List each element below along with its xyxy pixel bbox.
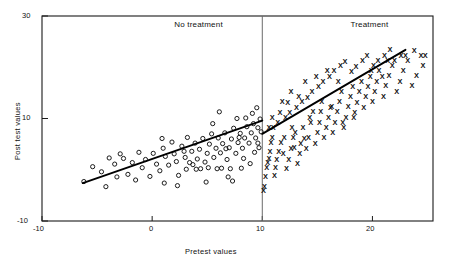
panel-label-no-treatment: No treatment — [174, 20, 223, 29]
data-point-x-marker: X — [306, 133, 311, 142]
data-point-circle — [247, 141, 251, 145]
y-tick-label-10: 10 — [22, 113, 30, 122]
data-point-x-marker: X — [370, 97, 375, 106]
data-point-circle — [215, 167, 219, 171]
data-point-circle — [191, 163, 195, 167]
data-point-circle — [137, 150, 141, 154]
data-point-x-marker: X — [320, 77, 325, 86]
data-point-x-marker: X — [324, 123, 329, 132]
data-point-x-marker: X — [350, 82, 355, 91]
data-point-x-marker: X — [397, 77, 402, 86]
data-point-x-marker: X — [421, 61, 426, 70]
data-point-x-marker: X — [401, 66, 406, 75]
data-point-x-marker: X — [361, 103, 366, 112]
data-point-x-marker: X — [262, 182, 267, 191]
data-point-x-marker: X — [375, 56, 380, 65]
data-point-x-marker: X — [290, 123, 295, 132]
data-point-x-marker: X — [351, 113, 356, 122]
data-point-circle — [176, 173, 180, 177]
data-point-circle — [113, 162, 117, 166]
data-point-circle — [221, 142, 225, 146]
data-point-circle — [115, 175, 119, 179]
data-point-x-marker: X — [313, 139, 318, 148]
y-axis-label: Post test values — [13, 102, 22, 160]
data-point-circle — [243, 136, 247, 140]
data-point-x-marker: X — [394, 87, 399, 96]
data-point-x-marker: X — [277, 108, 282, 117]
data-point-circle — [248, 162, 252, 166]
data-point-circle — [190, 149, 194, 153]
data-point-x-marker: X — [263, 172, 268, 181]
data-point-circle — [167, 163, 171, 167]
data-point-circle — [199, 167, 203, 171]
data-point-circle — [99, 170, 103, 174]
data-point-circle — [203, 160, 207, 164]
data-point-x-marker: X — [294, 103, 299, 112]
data-point-circle — [219, 166, 223, 170]
x-tick-label-minus10: -10 — [33, 224, 44, 233]
data-point-x-marker: X — [281, 149, 286, 158]
data-point-circle — [240, 146, 244, 150]
data-point-x-marker: X — [355, 98, 360, 107]
data-point-x-marker: X — [280, 97, 285, 106]
data-point-circle — [197, 147, 201, 151]
data-point-circle — [206, 166, 210, 170]
data-point-x-marker: X — [348, 92, 353, 101]
data-point-circle — [207, 142, 211, 146]
data-point-circle — [256, 141, 260, 145]
data-point-circle — [212, 155, 216, 159]
regression-line-no-treatment — [83, 121, 263, 184]
data-point-x-marker: X — [304, 144, 309, 153]
data-point-x-marker: X — [329, 102, 334, 111]
data-point-circle — [104, 185, 108, 189]
data-point-x-marker: X — [336, 77, 341, 86]
data-points-no-treatment — [82, 106, 264, 189]
data-point-x-marker: X — [268, 147, 273, 156]
data-point-circle — [237, 135, 241, 139]
data-point-circle — [134, 178, 138, 182]
x-tick-label-10: 10 — [256, 224, 264, 233]
data-point-x-marker: X — [410, 81, 415, 90]
data-point-circle — [218, 151, 222, 155]
data-point-circle — [217, 110, 221, 114]
data-point-x-marker: X — [297, 149, 302, 158]
data-point-x-marker: X — [270, 113, 275, 122]
data-point-x-marker: X — [285, 98, 290, 107]
x-tick-label-20: 20 — [366, 224, 374, 233]
data-point-circle — [151, 151, 155, 155]
data-point-x-marker: X — [292, 143, 297, 152]
data-point-x-marker: X — [272, 171, 277, 180]
data-point-x-marker: X — [317, 118, 322, 127]
x-axis-label: Pretest values — [185, 247, 237, 256]
data-point-circle — [107, 156, 111, 160]
plot-border — [42, 16, 433, 221]
data-point-x-marker: X — [383, 81, 388, 90]
data-point-circle — [214, 146, 218, 150]
data-point-circle — [226, 175, 230, 179]
data-point-circle — [239, 166, 243, 170]
data-point-x-marker: X — [286, 155, 291, 164]
data-point-x-marker: X — [325, 66, 330, 75]
scatter-plot-figure: XXXXXXXXXXXXXXXXXXXXXXXXXXXXXXXXXXXXXXXX… — [0, 0, 454, 266]
plot-canvas: XXXXXXXXXXXXXXXXXXXXXXXXXXXXXXXXXXXXXXXX… — [0, 0, 454, 266]
data-point-x-marker: X — [326, 113, 331, 122]
data-point-x-marker: X — [414, 71, 419, 80]
data-point-circle — [236, 140, 240, 144]
data-point-x-marker: X — [380, 72, 385, 81]
data-point-x-marker: X — [296, 92, 301, 101]
data-point-circle — [194, 167, 198, 171]
data-point-circle — [244, 116, 248, 120]
data-point-x-marker: X — [330, 128, 335, 137]
data-point-circle — [183, 155, 187, 159]
x-tick-label-0: 0 — [149, 224, 153, 233]
data-point-x-marker: X — [333, 118, 338, 127]
data-point-x-marker: X — [342, 57, 347, 66]
data-point-x-marker: X — [423, 51, 428, 60]
data-point-x-marker: X — [288, 87, 293, 96]
data-point-x-marker: X — [282, 133, 287, 142]
data-point-circle — [211, 122, 215, 126]
data-point-circle — [184, 167, 188, 171]
data-point-circle — [158, 169, 162, 173]
data-point-circle — [205, 151, 209, 155]
data-point-circle — [230, 179, 234, 183]
